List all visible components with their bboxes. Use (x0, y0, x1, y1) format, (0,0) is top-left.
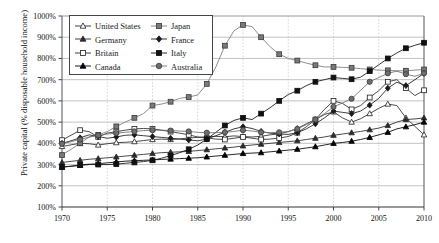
legend-item-germany[interactable]: Germany (75, 34, 151, 44)
legend-marker-gray-square-icon (151, 21, 167, 31)
legend-item-canada[interactable]: Canada (75, 61, 151, 71)
y-tick-label: 800% (37, 54, 56, 63)
legend-label: Australia (171, 63, 202, 72)
y-tick-label: 500% (37, 118, 56, 127)
legend-grid: United StatesJapanGermanyFranceBritainIt… (75, 19, 208, 73)
y-tick-label: 400% (37, 139, 56, 148)
y-tick-label: 100% (37, 203, 56, 212)
legend-item-united-states[interactable]: United States (75, 21, 151, 31)
legend-marker-open-triangle-icon (75, 21, 91, 31)
chart-container: Private capital (% disposable household … (0, 0, 439, 243)
x-tick-label: 1970 (54, 214, 70, 223)
y-tick-label: 1000% (33, 12, 56, 21)
legend-item-italy[interactable]: Italy (151, 48, 215, 58)
x-tick-label: 2010 (416, 214, 432, 223)
legend-label: Britain (95, 49, 119, 58)
y-tick-label: 200% (37, 182, 56, 191)
x-axis-ticks: 197019751980198519901995200020052010 (54, 207, 432, 223)
legend-item-japan[interactable]: Japan (151, 21, 215, 31)
legend-label: Japan (171, 22, 190, 31)
x-tick-label: 1975 (99, 214, 115, 223)
legend-label: France (171, 36, 194, 45)
legend-item-australia[interactable]: Australia (151, 61, 215, 71)
x-tick-label: 1995 (280, 214, 296, 223)
x-tick-label: 1985 (190, 214, 206, 223)
legend-label: United States (95, 22, 141, 31)
plot-area: 100%200%300%400%500%600%700%800%900%1000… (0, 0, 439, 243)
x-tick-label: 1980 (145, 214, 161, 223)
y-tick-label: 700% (37, 76, 56, 85)
x-tick-label: 2000 (326, 214, 342, 223)
legend-marker-gray-circle-icon (151, 61, 167, 71)
legend-label: Italy (171, 49, 187, 58)
legend-marker-filled-triangle-dark-icon (75, 61, 91, 71)
legend: United StatesJapanGermanyFranceBritainIt… (69, 15, 213, 75)
y-tick-label: 600% (37, 97, 56, 106)
legend-marker-filled-square-icon (151, 48, 167, 58)
legend-item-britain[interactable]: Britain (75, 48, 151, 58)
legend-label: Germany (95, 36, 127, 45)
legend-marker-filled-triangle-icon (75, 34, 91, 44)
y-tick-label: 900% (37, 33, 56, 42)
legend-marker-open-square-icon (75, 48, 91, 58)
legend-label: Canada (95, 63, 121, 72)
legend-marker-filled-diamond-icon (151, 34, 167, 44)
legend-item-france[interactable]: France (151, 34, 215, 44)
y-axis-ticks: 100%200%300%400%500%600%700%800%900%1000… (33, 12, 62, 212)
x-tick-label: 1990 (235, 214, 251, 223)
x-tick-label: 2005 (371, 214, 387, 223)
y-tick-label: 300% (37, 161, 56, 170)
